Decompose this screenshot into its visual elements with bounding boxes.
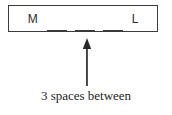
blank-spaces-group <box>43 12 127 26</box>
caption-label: 3 spaces between <box>0 88 172 104</box>
word-pattern-row: M L <box>9 6 157 31</box>
up-arrow-icon <box>80 38 94 86</box>
word-pattern-box: M L <box>8 5 158 32</box>
end-letter: L <box>132 13 139 25</box>
blank-space-2 <box>75 30 95 31</box>
blank-space-1 <box>47 30 67 31</box>
figure-canvas: M L 3 spaces between <box>0 0 172 115</box>
start-letter: M <box>28 13 38 25</box>
blank-space-3 <box>103 30 123 31</box>
